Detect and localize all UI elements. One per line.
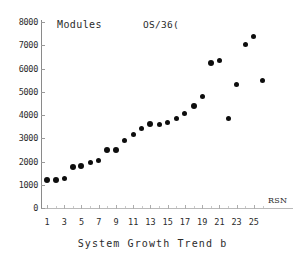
x-tick-mark-minor-24 xyxy=(245,206,246,208)
x-tick-mark-13 xyxy=(150,205,151,209)
data-point xyxy=(200,94,205,99)
y-tick-mark-2000 xyxy=(41,162,45,163)
x-tick-mark-minor-22 xyxy=(228,206,229,208)
y-tick-label-1000: 1000 xyxy=(4,181,38,190)
data-point xyxy=(78,163,84,169)
data-point xyxy=(157,122,162,127)
data-point xyxy=(113,147,119,153)
y-tick-label-7000: 7000 xyxy=(4,41,38,50)
y-tick-label-3000: 3000 xyxy=(4,134,38,143)
x-tick-mark-7 xyxy=(99,205,100,209)
data-point xyxy=(174,116,179,121)
x-tick-label-15: 15 xyxy=(160,218,176,227)
data-point xyxy=(243,42,248,47)
data-point xyxy=(44,177,50,183)
y-tick-mark-1000 xyxy=(41,185,45,186)
x-tick-label-21: 21 xyxy=(211,218,227,227)
x-tick-mark-1 xyxy=(47,205,48,209)
data-point xyxy=(182,111,187,116)
x-tick-mark-minor-14 xyxy=(159,206,160,208)
x-tick-mark-minor-4 xyxy=(73,206,74,208)
data-point xyxy=(96,158,101,163)
x-tick-label-3: 3 xyxy=(56,218,72,227)
x-axis-unit-label: RSN xyxy=(268,196,287,205)
x-tick-mark-minor-6 xyxy=(90,206,91,208)
y-tick-mark-8000 xyxy=(41,22,45,23)
x-tick-mark-11 xyxy=(133,205,134,209)
data-point xyxy=(251,34,256,39)
y-tick-label-8000: 8000 xyxy=(4,18,38,27)
x-tick-mark-15 xyxy=(168,205,169,209)
scatter-chart: 010002000300040005000600070008000 135791… xyxy=(0,0,305,266)
series-label: Modules xyxy=(57,19,102,30)
x-tick-mark-9 xyxy=(116,205,117,209)
y-tick-mark-3000 xyxy=(41,138,45,139)
data-point xyxy=(53,177,59,183)
data-point xyxy=(131,132,136,137)
x-tick-mark-minor-12 xyxy=(142,206,143,208)
x-tick-label-1: 1 xyxy=(39,218,55,227)
x-tick-label-7: 7 xyxy=(91,218,107,227)
x-tick-mark-19 xyxy=(202,205,203,209)
y-tick-label-6000: 6000 xyxy=(4,65,38,74)
y-tick-label-0: 0 xyxy=(4,204,38,213)
x-tick-label-5: 5 xyxy=(73,218,89,227)
x-tick-mark-minor-2 xyxy=(56,206,57,208)
y-tick-label-4000: 4000 xyxy=(4,111,38,120)
x-tick-mark-minor-18 xyxy=(194,206,195,208)
data-point xyxy=(226,116,231,121)
y-tick-mark-0 xyxy=(41,208,45,209)
data-point xyxy=(165,120,170,125)
x-tick-label-13: 13 xyxy=(142,218,158,227)
x-tick-mark-minor-20 xyxy=(211,206,212,208)
x-tick-mark-17 xyxy=(185,205,186,209)
data-point xyxy=(191,103,197,109)
x-tick-mark-3 xyxy=(64,205,65,209)
data-point xyxy=(234,82,239,87)
y-tick-mark-4000 xyxy=(41,115,45,116)
y-tick-mark-5000 xyxy=(41,92,45,93)
x-tick-mark-21 xyxy=(219,205,220,209)
x-tick-label-9: 9 xyxy=(108,218,124,227)
data-point xyxy=(217,58,222,63)
y-tick-mark-6000 xyxy=(41,69,45,70)
y-tick-mark-7000 xyxy=(41,45,45,46)
x-tick-label-11: 11 xyxy=(125,218,141,227)
y-tick-label-5000: 5000 xyxy=(4,88,38,97)
y-tick-label-2000: 2000 xyxy=(4,158,38,167)
data-point xyxy=(122,138,127,143)
x-tick-mark-minor-26 xyxy=(263,206,264,208)
x-tick-mark-minor-16 xyxy=(176,206,177,208)
system-label: OS/36( xyxy=(143,19,179,30)
x-tick-mark-23 xyxy=(237,205,238,209)
x-axis-title: System Growth Trend b xyxy=(0,238,305,250)
x-tick-label-17: 17 xyxy=(177,218,193,227)
data-point xyxy=(104,147,110,153)
x-tick-mark-minor-8 xyxy=(107,206,108,208)
x-tick-label-23: 23 xyxy=(229,218,245,227)
x-tick-mark-minor-10 xyxy=(125,206,126,208)
data-point xyxy=(260,78,265,83)
x-tick-label-25: 25 xyxy=(246,218,262,227)
data-point xyxy=(62,176,67,181)
x-tick-label-19: 19 xyxy=(194,218,210,227)
x-tick-mark-5 xyxy=(81,205,82,209)
data-point xyxy=(147,121,153,127)
data-point xyxy=(208,60,214,66)
data-point xyxy=(139,126,144,131)
x-tick-mark-25 xyxy=(254,205,255,209)
data-point xyxy=(88,160,93,165)
data-point xyxy=(70,164,76,170)
